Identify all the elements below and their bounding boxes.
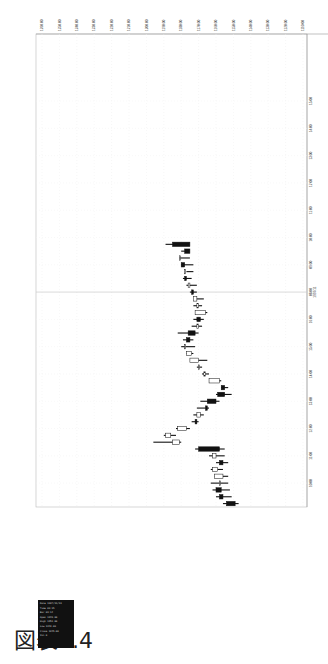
price-tick-label: 1200.00 — [145, 19, 149, 31]
candle-body-up — [209, 379, 219, 383]
candle-body-down — [192, 290, 194, 294]
candle-body-up — [166, 433, 171, 437]
candlestick-chart: 1260.001250.001240.001230.001220.001210.… — [0, 0, 328, 664]
candle-body-down — [206, 406, 208, 410]
candle-body-up — [185, 344, 186, 348]
price-tick-label: 1220.00 — [110, 19, 114, 31]
price-tick-label: 1150.00 — [232, 19, 236, 31]
price-tick-label: 1240.00 — [75, 19, 79, 31]
candle-body-down — [219, 460, 222, 464]
price-tick-label: 1110.00 — [301, 20, 305, 31]
candle-body-up — [188, 283, 190, 287]
candle-body-down — [218, 392, 225, 396]
price-tick-label: 1160.00 — [214, 19, 218, 31]
candle-body-up — [178, 426, 187, 430]
price-tick-label: 1170.00 — [197, 19, 201, 31]
candle-body-up — [213, 454, 216, 458]
price-tick-label: 1120.00 — [284, 19, 288, 31]
price-tick-label: 1130.00 — [266, 19, 270, 31]
candle-body-up — [193, 297, 196, 301]
candle-body-up — [195, 310, 205, 314]
price-tick-label: 1180.00 — [179, 19, 183, 31]
time-tick-label: 16:00 — [309, 315, 313, 323]
candle-body-up — [173, 440, 180, 444]
candle-body-up — [190, 358, 199, 362]
candle-body-down — [207, 399, 216, 403]
candle-body-down — [197, 317, 200, 321]
price-tick-label: 1210.00 — [127, 19, 131, 31]
candle-body-down — [173, 242, 190, 246]
time-tick-sublabel: 1997/11 — [313, 286, 317, 298]
time-tick-label: 09:00 — [309, 261, 313, 269]
candle-body-up — [185, 269, 186, 273]
candle-body-down — [185, 249, 190, 253]
candle-body-up — [199, 365, 200, 369]
time-tick-label: 13:00 — [309, 397, 313, 405]
candle-body-up — [219, 481, 220, 485]
candle-body-up — [197, 304, 199, 308]
time-tick-label: 10:00 — [309, 479, 313, 487]
time-tick-label: 12:00 — [309, 179, 313, 187]
candle-body-down — [185, 276, 187, 280]
legend-line: Vol 0 — [40, 634, 72, 639]
time-tick-label: 11:00 — [309, 452, 313, 460]
time-tick-label: 15:00 — [309, 97, 313, 105]
candle-body-down — [188, 331, 195, 335]
candle-body-up — [197, 413, 200, 417]
candle-body-down — [226, 501, 235, 505]
candle-body-up — [214, 474, 223, 478]
candle-body-up — [213, 467, 218, 471]
candle-body-down — [219, 495, 222, 499]
time-tick-label: 11:00 — [309, 206, 313, 214]
candle-body-down — [216, 488, 221, 492]
candle-body-up — [186, 351, 191, 355]
candle-body-down — [181, 263, 184, 267]
price-tick-label: 1230.00 — [92, 19, 96, 31]
time-tick-label: 15:00 — [309, 342, 313, 350]
time-tick-label: 14:00 — [309, 124, 313, 132]
price-tick-label: 1260.00 — [40, 19, 44, 31]
candle-body-up — [197, 324, 199, 328]
time-tick-label: 13:00 — [309, 151, 313, 159]
candle-body-up — [179, 256, 180, 260]
candle-body-down — [195, 420, 197, 424]
time-tick-label: 10:00 — [309, 233, 313, 241]
price-tick-label: 1190.00 — [162, 19, 166, 31]
time-tick-label: 12:00 — [309, 424, 313, 432]
price-tick-label: 1250.00 — [58, 19, 62, 31]
candle-body-up — [204, 372, 206, 376]
ohlc-legend-box: Date 1997/11/19Time 09:15Bar 09:14Open 1… — [38, 600, 74, 648]
candle-body-down — [199, 447, 220, 451]
candle-body-down — [186, 338, 189, 342]
time-tick-label: 14:00 — [309, 370, 313, 378]
candle-body-down — [221, 385, 224, 389]
price-tick-label: 1140.00 — [249, 19, 253, 31]
